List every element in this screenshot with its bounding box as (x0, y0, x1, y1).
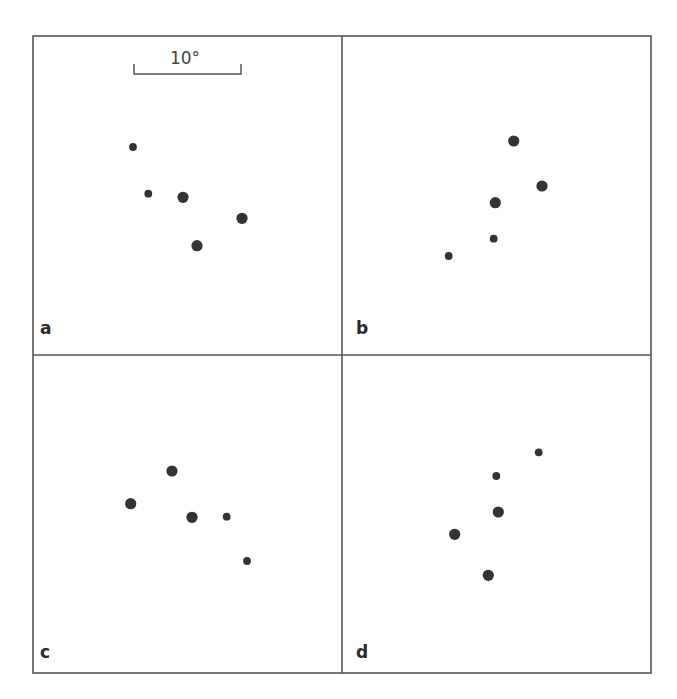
star-dot-small (144, 190, 152, 198)
star-dot-large (483, 570, 494, 581)
star-dot-large (177, 192, 188, 203)
panel-grid-frame (33, 36, 651, 673)
panel-b: b (356, 135, 548, 338)
star-field-diagram: 10° a b c d (0, 0, 677, 699)
star-dot-small (492, 472, 500, 480)
panel-d: d (356, 448, 543, 662)
star-dot-small (445, 252, 453, 260)
star-dot-small (223, 513, 231, 521)
star-dot-large (191, 240, 202, 251)
star-dot-small (129, 143, 137, 151)
star-dot-large (236, 213, 247, 224)
star-dot-large (449, 529, 460, 540)
star-dot-large (490, 197, 501, 208)
star-dot-small (535, 448, 543, 456)
star-dot-large (125, 498, 136, 509)
panel-label-b: b (356, 318, 368, 338)
star-dot-large (186, 512, 197, 523)
panel-c: c (40, 465, 251, 662)
scale-bar-label: 10° (170, 48, 200, 68)
panel-a: a (40, 143, 248, 338)
star-dot-large (508, 135, 519, 146)
panel-label-a: a (40, 318, 51, 338)
scale-bar: 10° (134, 48, 241, 74)
star-dot-large (493, 506, 504, 517)
panel-label-c: c (40, 642, 50, 662)
panel-label-d: d (356, 642, 368, 662)
star-dot-small (243, 557, 251, 565)
star-dot-large (166, 465, 177, 476)
star-dot-large (536, 180, 547, 191)
star-dot-small (490, 235, 498, 243)
